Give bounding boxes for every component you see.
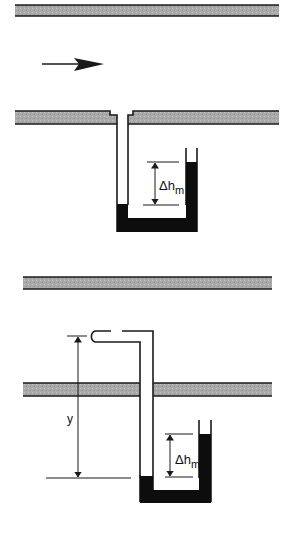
lower-pipe-wall-with-tap: [15, 111, 279, 124]
manometer-fluid: [117, 162, 197, 232]
manometer-fluid-2: [140, 434, 211, 503]
top-panel: Δhm: [15, 5, 279, 232]
lower-pipe-wall-2: [23, 383, 272, 396]
delta-h-label: Δhm: [159, 178, 184, 196]
y-height-dimension: y: [46, 336, 131, 478]
bottom-panel: Δhm y: [23, 277, 272, 503]
upper-pipe-wall: [15, 5, 279, 16]
static-tap-manometer: Δhm: [117, 124, 197, 232]
upper-pipe-wall-2: [23, 277, 272, 289]
y-label: y: [67, 412, 73, 426]
pitot-manometer: Δhm: [140, 420, 211, 503]
flow-arrow-icon: [42, 58, 104, 71]
delta-h-label-2: Δhm: [175, 452, 200, 470]
pipe-flow-manometer-diagram: Δhm: [0, 0, 301, 533]
